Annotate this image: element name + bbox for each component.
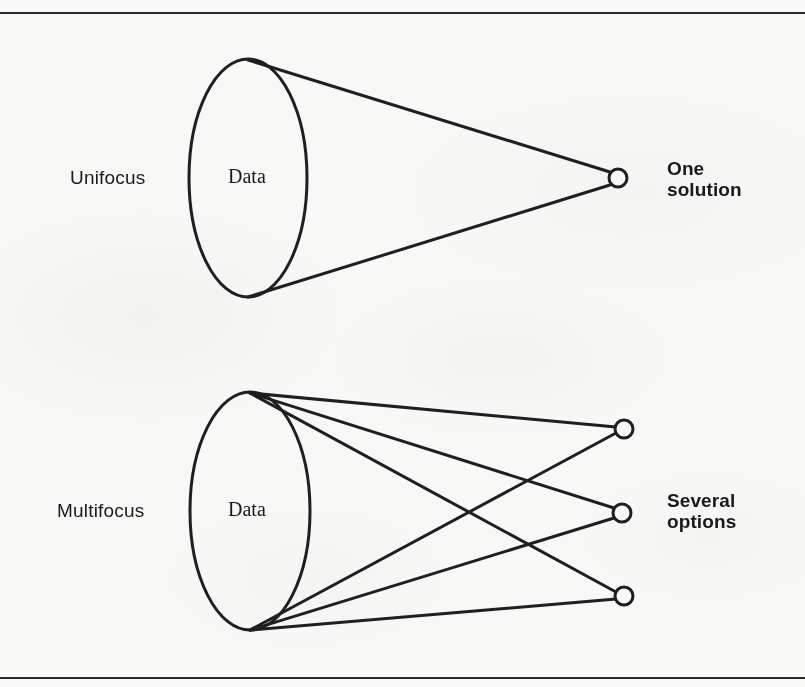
multifocus-mode-label: Multifocus xyxy=(57,500,145,521)
diagram-canvas xyxy=(0,0,805,687)
unifocus-outcome-node xyxy=(609,169,627,187)
unifocus-outcome-label-line1: One xyxy=(667,158,704,179)
multifocus-data-label: Data xyxy=(228,499,266,520)
multifocus-outcome-node-1 xyxy=(615,420,633,438)
unifocus-outcome-label-line2: solution xyxy=(667,179,742,200)
unifocus-mode-label: Unifocus xyxy=(70,167,146,188)
unifocus-cone-lines xyxy=(248,60,610,297)
multifocus-fan-lines xyxy=(250,393,616,630)
multifocus-outcome-label-line2: options xyxy=(667,511,736,532)
multifocus-outcome-label: Severaloptions xyxy=(667,490,736,532)
unifocus-data-label: Data xyxy=(228,166,266,187)
unifocus-cone-line-upper xyxy=(248,60,610,172)
unifocus-cone-line-lower xyxy=(248,185,610,297)
multifocus-outcome-label-line1: Several xyxy=(667,490,735,511)
unifocus-outcome-label: Onesolution xyxy=(667,158,742,200)
multifocus-outcome-node-2 xyxy=(613,504,631,522)
scanned-figure-page: g xyxy=(0,0,805,687)
multifocus-outcome-node-3 xyxy=(615,587,633,605)
